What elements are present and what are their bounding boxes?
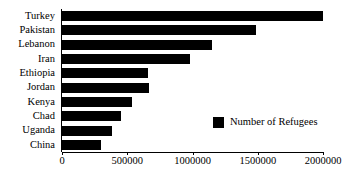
x-axis-ticks: 0500000100000015000002000000 [62,152,323,170]
bar-row [62,95,323,109]
x-tick-label: 0 [59,156,64,167]
legend-swatch-icon [213,117,224,128]
bar-row [62,138,323,152]
legend-label: Number of Refugees [230,117,317,128]
x-tick-label: 2000000 [305,156,342,167]
category-axis-labels: TurkeyPakistanLebanonIranEthiopiaJordanK… [0,9,58,152]
bar [62,126,112,136]
bar-row [62,23,323,37]
x-tick-label: 500000 [112,156,144,167]
legend: Number of Refugees [213,117,317,128]
bar [62,40,212,50]
category-label: Ethiopia [0,66,58,80]
bar-chart: TurkeyPakistanLebanonIranEthiopiaJordanK… [0,0,362,182]
category-label: Iran [0,52,58,66]
category-label: Pakistan [0,23,58,37]
bar [62,140,101,150]
category-label: Kenya [0,95,58,109]
bar-row [62,9,323,23]
bar-rows [62,9,323,152]
category-label: China [0,138,58,152]
category-label: Lebanon [0,38,58,52]
category-label: Turkey [0,9,58,23]
bar [62,83,149,93]
bar-row [62,38,323,52]
category-label: Jordan [0,80,58,94]
bar [62,54,190,64]
x-tick-label: 1000000 [174,156,211,167]
plot-area [62,9,323,152]
bar [62,25,256,35]
bar [62,111,121,121]
bar-row [62,52,323,66]
bar [62,11,323,21]
x-tick-label: 1500000 [239,156,276,167]
bar [62,97,132,107]
bar-row [62,66,323,80]
category-label: Chad [0,109,58,123]
category-label: Uganda [0,123,58,137]
bar [62,68,148,78]
bar-row [62,80,323,94]
